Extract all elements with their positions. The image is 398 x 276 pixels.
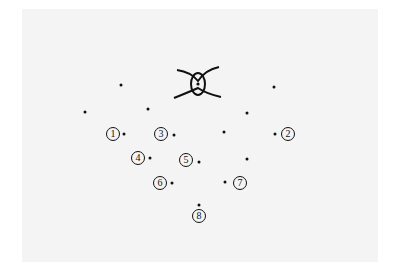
stimulus-dot xyxy=(273,86,276,89)
point-label-3: 3 xyxy=(154,127,168,141)
stimulus-dot-2 xyxy=(274,133,277,136)
stimulus-dot-3 xyxy=(173,134,176,137)
stimulus-dot-7 xyxy=(224,181,227,184)
stimulus-dot-5 xyxy=(198,161,201,164)
stimulus-dot xyxy=(246,112,249,115)
point-label-1: 1 xyxy=(106,127,120,141)
point-label-4: 4 xyxy=(131,151,145,165)
point-label-5: 5 xyxy=(179,153,193,167)
diagram-panel xyxy=(22,9,378,262)
stimulus-dot-6 xyxy=(171,182,174,185)
point-label-2: 2 xyxy=(281,127,295,141)
point-label-8: 8 xyxy=(192,209,206,223)
stimulus-dot xyxy=(147,108,150,111)
eye-icon xyxy=(173,64,223,104)
stimulus-dot xyxy=(84,111,87,114)
stimulus-dot-8 xyxy=(198,204,201,207)
stimulus-dot xyxy=(223,131,226,134)
stimulus-dot-4 xyxy=(149,157,152,160)
stimulus-dot-1 xyxy=(123,133,126,136)
point-label-7: 7 xyxy=(233,176,247,190)
stimulus-dot xyxy=(120,84,123,87)
point-label-6: 6 xyxy=(153,176,167,190)
stimulus-dot xyxy=(246,158,249,161)
